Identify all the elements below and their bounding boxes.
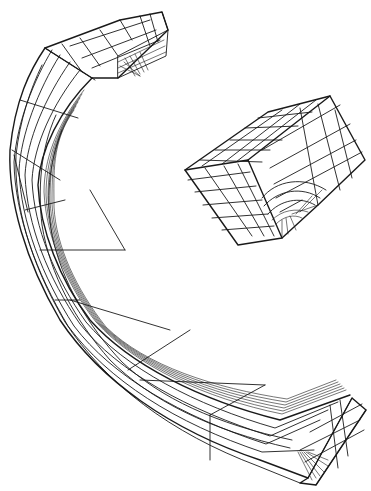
mesh-figure [0, 0, 371, 491]
curved-beam-mesh [10, 12, 366, 485]
cube-mesh [185, 96, 365, 245]
figure-canvas [0, 0, 371, 491]
